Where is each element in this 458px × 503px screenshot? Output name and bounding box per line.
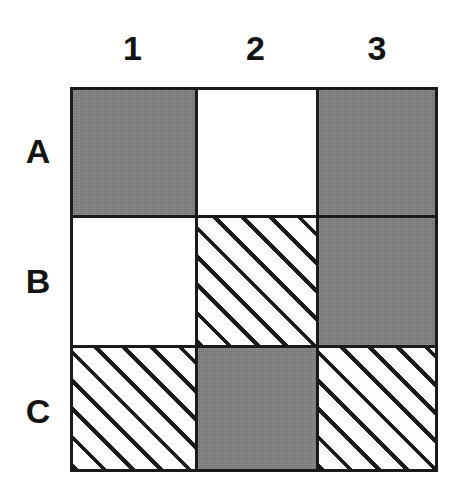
- column-header-1: 1: [70, 28, 195, 68]
- grid-cell-c1: [73, 345, 195, 469]
- grid-cell-c3: [316, 345, 435, 469]
- grid-cell-a3: [316, 90, 435, 215]
- row-header-c: C: [14, 391, 62, 431]
- figure-root: 1 2 3 A B C: [0, 0, 458, 503]
- column-header-3: 3: [316, 28, 438, 68]
- row-header-b: B: [14, 261, 62, 301]
- grid-cell-b1: [73, 215, 195, 345]
- grid-cell-b2: [195, 215, 316, 345]
- grid-matrix: [70, 87, 438, 472]
- grid-cell-b3: [316, 215, 435, 345]
- column-header-2: 2: [195, 28, 316, 68]
- grid-cell-c2: [195, 345, 316, 469]
- row-header-a: A: [14, 131, 62, 171]
- grid-cell-a1: [73, 90, 195, 215]
- grid-cell-a2: [195, 90, 316, 215]
